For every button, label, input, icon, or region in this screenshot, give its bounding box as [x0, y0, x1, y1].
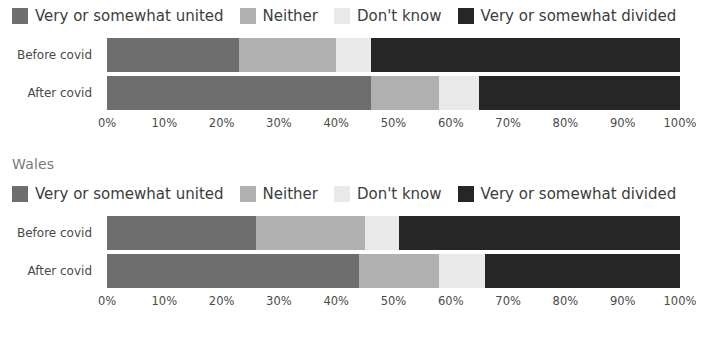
category-label-after-covid: After covid [0, 264, 100, 278]
x-axis-tick: 60% [438, 294, 464, 308]
bar-track-after-covid [107, 254, 680, 288]
bar-segment-dont-know[interactable] [365, 216, 399, 250]
legend-wales: Very or somewhat united Neither Don't kn… [0, 186, 709, 202]
legend-label-neither: Neither [263, 9, 318, 24]
x-axis-tick: 30% [266, 116, 292, 130]
legend-swatch-united-icon [12, 186, 28, 202]
bar-segment-divided[interactable] [479, 76, 680, 110]
chart-section-top: Very or somewhat united Neither Don't kn… [0, 0, 709, 134]
bar-segment-dont-know[interactable] [336, 38, 370, 72]
category-label-before-covid: Before covid [0, 226, 100, 240]
bar-segment-divided[interactable] [485, 254, 680, 288]
legend-swatch-neither-icon [240, 186, 256, 202]
bar-segment-neither[interactable] [239, 38, 336, 72]
x-axis-tick: 80% [553, 294, 579, 308]
legend-item-neither: Neither [240, 8, 318, 24]
plot-area-wales: Before covid After covid 0%10%20%30%40%5… [0, 216, 709, 312]
bar-segment-united[interactable] [107, 254, 359, 288]
legend-plot-spacer [0, 24, 709, 38]
x-axis-tick: 90% [610, 294, 636, 308]
legend-label-dont-know: Don't know [357, 9, 442, 24]
legend-label-divided: Very or somewhat divided [481, 9, 677, 24]
x-axis-tick: 50% [381, 294, 407, 308]
category-label-before-covid: Before covid [0, 48, 100, 62]
bar-track-before-covid [107, 216, 680, 250]
legend-label-united: Very or somewhat united [35, 187, 224, 202]
x-axis-tick: 40% [323, 116, 349, 130]
x-axis-tick: 0% [98, 294, 116, 308]
legend-swatch-divided-icon [458, 186, 474, 202]
x-axis-tick: 20% [209, 116, 235, 130]
x-axis-top: 0%10%20%30%40%50%60%70%80%90%100% [0, 114, 709, 134]
legend-item-neither: Neither [240, 186, 318, 202]
legend-item-dont-know: Don't know [334, 8, 442, 24]
legend-swatch-united-icon [12, 8, 28, 24]
chart-section-wales: Wales Very or somewhat united Neither Do… [0, 156, 709, 312]
bar-row-after-covid: After covid [0, 254, 709, 288]
x-axis-tick: 10% [152, 116, 178, 130]
legend-item-united: Very or somewhat united [12, 8, 224, 24]
x-axis-tick: 60% [438, 116, 464, 130]
bar-segment-dont-know[interactable] [439, 76, 479, 110]
chart-title-wales: Wales [0, 156, 709, 172]
bar-track-before-covid [107, 38, 680, 72]
legend-item-divided: Very or somewhat divided [458, 8, 677, 24]
x-axis-tick: 70% [495, 116, 521, 130]
legend-swatch-dont-know-icon [334, 186, 350, 202]
bar-segment-united[interactable] [107, 38, 239, 72]
bar-segment-divided[interactable] [371, 38, 680, 72]
x-axis-tick: 10% [152, 294, 178, 308]
title-legend-spacer [0, 172, 709, 186]
x-axis-tick: 30% [266, 294, 292, 308]
category-label-after-covid: After covid [0, 86, 100, 100]
bar-segment-united[interactable] [107, 216, 256, 250]
x-axis-wales: 0%10%20%30%40%50%60%70%80%90%100% [0, 292, 709, 312]
legend-plot-spacer [0, 202, 709, 216]
legend-label-divided: Very or somewhat divided [481, 187, 677, 202]
bar-row-after-covid: After covid [0, 76, 709, 110]
legend-swatch-dont-know-icon [334, 8, 350, 24]
bar-segment-divided[interactable] [399, 216, 680, 250]
bar-segment-neither[interactable] [359, 254, 439, 288]
bar-segment-neither[interactable] [256, 216, 365, 250]
legend-item-united: Very or somewhat united [12, 186, 224, 202]
plot-area-top: Before covid After covid 0%10%20%30%40%5… [0, 38, 709, 134]
section-spacer [0, 134, 709, 156]
legend-swatch-divided-icon [458, 8, 474, 24]
x-axis-tick: 100% [664, 116, 697, 130]
legend-label-neither: Neither [263, 187, 318, 202]
x-axis-tick: 80% [553, 116, 579, 130]
bar-segment-dont-know[interactable] [439, 254, 485, 288]
bar-row-before-covid: Before covid [0, 38, 709, 72]
x-axis-tick: 50% [381, 116, 407, 130]
bar-segment-united[interactable] [107, 76, 371, 110]
bar-row-before-covid: Before covid [0, 216, 709, 250]
x-axis-tick: 90% [610, 116, 636, 130]
x-axis-tick: 0% [98, 116, 116, 130]
legend-label-united: Very or somewhat united [35, 9, 224, 24]
legend-label-dont-know: Don't know [357, 187, 442, 202]
legend-item-divided: Very or somewhat divided [458, 186, 677, 202]
bar-segment-neither[interactable] [371, 76, 440, 110]
bar-track-after-covid [107, 76, 680, 110]
x-axis-tick: 100% [664, 294, 697, 308]
legend-swatch-neither-icon [240, 8, 256, 24]
x-axis-tick: 20% [209, 294, 235, 308]
legend-top: Very or somewhat united Neither Don't kn… [0, 8, 709, 24]
x-axis-tick: 70% [495, 294, 521, 308]
legend-item-dont-know: Don't know [334, 186, 442, 202]
x-axis-tick: 40% [323, 294, 349, 308]
